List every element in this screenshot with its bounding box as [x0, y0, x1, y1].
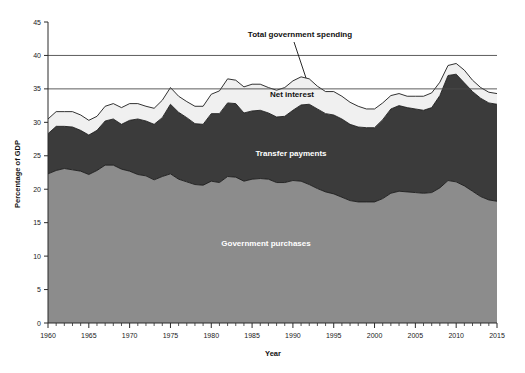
- x-tick-label: 1960: [40, 332, 56, 339]
- x-tick-label: 2000: [367, 332, 383, 339]
- y-tick-label: 0: [37, 320, 41, 327]
- x-tick-label: 2005: [408, 332, 424, 339]
- x-tick-label: 2010: [448, 332, 464, 339]
- y-tick-label: 30: [33, 119, 41, 126]
- series-areas: [48, 63, 497, 323]
- y-tick-label: 5: [37, 286, 41, 293]
- y-tick-label: 20: [33, 186, 41, 193]
- reference-lines: [48, 55, 497, 88]
- x-axis-title: Year: [265, 349, 281, 358]
- y-tick-label: 25: [33, 152, 41, 159]
- x-tick-label: 2015: [489, 332, 505, 339]
- y-tick-label: 45: [33, 19, 41, 26]
- annotation-government-purchases: Government purchases: [221, 239, 311, 248]
- x-tick-label: 1980: [203, 332, 219, 339]
- y-tick-label: 10: [33, 253, 41, 260]
- x-tick-label: 1975: [163, 332, 179, 339]
- chart-figure: 1960196519701975198019851990199520002005…: [0, 0, 525, 373]
- x-tick-label: 1970: [122, 332, 138, 339]
- stacked-area-chart: 1960196519701975198019851990199520002005…: [0, 0, 525, 373]
- y-tick-label: 40: [33, 52, 41, 59]
- x-axis-ticks: 1960196519701975198019851990199520002005…: [40, 323, 505, 339]
- annotation-transfer-payments: Transfer payments: [255, 149, 327, 158]
- y-tick-label: 35: [33, 85, 41, 92]
- x-tick-label: 1995: [326, 332, 342, 339]
- x-tick-label: 1990: [285, 332, 301, 339]
- annotation-net-interest: Net interest: [270, 90, 314, 99]
- x-tick-label: 1965: [81, 332, 97, 339]
- total-government-spending-leader: [294, 42, 306, 78]
- y-axis-title: Percentage of GDP: [13, 140, 22, 208]
- y-tick-label: 15: [33, 219, 41, 226]
- y-axis-ticks: 051015202530354045: [33, 19, 48, 327]
- x-tick-label: 1985: [244, 332, 260, 339]
- plot-area: 1960196519701975198019851990199520002005…: [33, 19, 505, 339]
- annotation-total-government-spending: Total government spending: [248, 30, 352, 39]
